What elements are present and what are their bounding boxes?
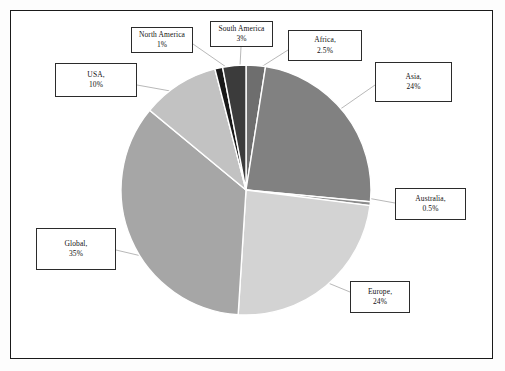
pie-chart-canvas	[0, 0, 505, 371]
callout-asia[interactable]: Asia, 24%	[375, 62, 452, 102]
callout-label-north-america: North America	[139, 30, 185, 40]
callout-value-global: 35%	[69, 249, 83, 259]
pie-chart-figure: North America 1% South America 3% Africa…	[0, 0, 505, 371]
callout-value-europe: 24%	[373, 297, 387, 307]
callout-usa[interactable]: USA, 10%	[55, 63, 137, 97]
callout-label-usa: USA,	[87, 70, 104, 80]
callout-label-global: Global,	[65, 239, 88, 249]
pie-slice-asia[interactable]	[246, 67, 371, 202]
leader-line-south-america	[240, 47, 241, 66]
callout-label-australia: Australia,	[415, 194, 445, 204]
callout-south-america[interactable]: South America 3%	[210, 21, 273, 47]
callout-label-africa: Africa,	[314, 35, 336, 45]
leader-line-asia	[339, 85, 375, 110]
callout-value-australia: 0.5%	[422, 204, 438, 214]
callout-europe[interactable]: Europe, 24%	[350, 281, 410, 313]
pie-slices	[121, 65, 371, 315]
callout-value-africa: 2.5%	[317, 46, 333, 56]
callout-label-europe: Europe,	[368, 287, 392, 297]
callout-north-america[interactable]: North America 1%	[131, 27, 193, 53]
callout-label-south-america: South America	[218, 24, 264, 34]
callout-value-usa: 10%	[89, 80, 103, 90]
callout-africa[interactable]: Africa, 2.5%	[288, 30, 362, 61]
callout-label-asia: Asia,	[405, 72, 421, 82]
callout-value-asia: 24%	[406, 82, 420, 92]
callout-global[interactable]: Global, 35%	[36, 228, 116, 270]
callout-value-north-america: 1%	[157, 40, 167, 50]
callout-value-south-america: 3%	[236, 34, 246, 44]
callout-australia[interactable]: Australia, 0.5%	[395, 188, 466, 220]
leader-line-north-america	[193, 44, 229, 69]
